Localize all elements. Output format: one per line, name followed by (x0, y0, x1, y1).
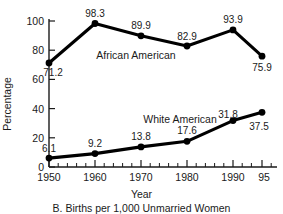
value-label-aa-1980: 82.9 (171, 32, 203, 42)
data-point (46, 155, 53, 162)
value-label-aa-1960: 98.3 (79, 9, 111, 19)
x-tick-label-1950: 1950 (29, 172, 69, 183)
data-point (184, 138, 191, 145)
value-label-wa-1960: 9.2 (79, 139, 111, 149)
data-point (92, 20, 99, 27)
data-point (92, 150, 99, 157)
x-axis-major-ticks (49, 160, 262, 167)
data-point (259, 53, 266, 60)
value-label-aa-1995: 75.9 (246, 63, 278, 73)
series-label-white-american: White American (130, 114, 230, 125)
value-label-aa-1950: 71.2 (37, 68, 69, 78)
data-point (184, 43, 191, 50)
y-axis-title: Percentage (1, 59, 13, 149)
x-tick-label-1970: 1970 (121, 172, 161, 183)
series-label-african-american: African American (86, 50, 186, 61)
y-tick-label-80: 80 (18, 45, 44, 56)
value-label-wa-1980: 17.6 (171, 126, 203, 136)
value-label-wa-1995: 37.5 (243, 122, 275, 132)
y-tick-label-20: 20 (18, 133, 44, 144)
chart-caption: B. Births per 1,000 Unmarried Women (0, 203, 283, 214)
data-point (230, 27, 237, 34)
x-tick-label-1960: 1960 (75, 172, 115, 183)
value-label-aa-1970: 89.9 (125, 21, 157, 31)
y-tick-label-100: 100 (18, 16, 44, 27)
x-axis-title: Year (0, 189, 283, 200)
value-label-wa-1970: 13.8 (125, 132, 157, 142)
x-tick-label-1980: 1980 (167, 172, 207, 183)
data-point (46, 60, 53, 67)
data-point (138, 144, 145, 151)
data-point (259, 109, 266, 116)
data-point (138, 32, 145, 39)
y-axis-title-wrapper: Percentage (0, 60, 14, 150)
y-tick-label-40: 40 (18, 104, 44, 115)
value-label-wa-1950: 6.1 (33, 144, 65, 154)
value-label-aa-1990: 93.9 (217, 15, 249, 25)
x-tick-label-95: 95 (244, 172, 283, 183)
chart-figure: 100 80 60 40 20 0 1950 1960 1970 1980 19… (0, 0, 283, 214)
